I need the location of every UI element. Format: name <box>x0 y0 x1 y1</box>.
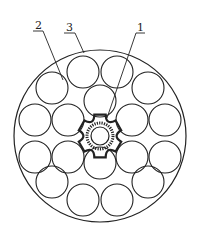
strand-wire <box>149 141 181 173</box>
strand-wire <box>19 104 51 136</box>
strand-wire <box>52 141 84 173</box>
strand-wire <box>84 147 116 179</box>
strand-wire <box>132 72 164 104</box>
strand-wire <box>84 85 116 117</box>
central-star-profile <box>79 115 121 158</box>
strand-wire <box>101 184 133 216</box>
strand-wire <box>67 56 99 88</box>
label-1: 1 <box>137 21 144 34</box>
label-3: 3 <box>66 21 73 34</box>
strand-wire <box>67 184 99 216</box>
cable-cross-section-diagram: 2 3 1 <box>0 0 199 234</box>
label-2: 2 <box>35 19 42 32</box>
strand-wire <box>116 141 148 173</box>
central-tube-inner <box>91 127 109 145</box>
strand-wire <box>101 56 133 88</box>
strand-wire <box>36 72 68 104</box>
strand-wires <box>19 56 181 216</box>
strand-wire <box>36 166 68 198</box>
strand-wire <box>149 104 181 136</box>
outer-sheath-circle <box>14 50 186 222</box>
strand-wire <box>132 166 164 198</box>
leader-line-3 <box>64 33 84 53</box>
strand-wire <box>19 141 51 173</box>
central-unit <box>79 115 121 158</box>
